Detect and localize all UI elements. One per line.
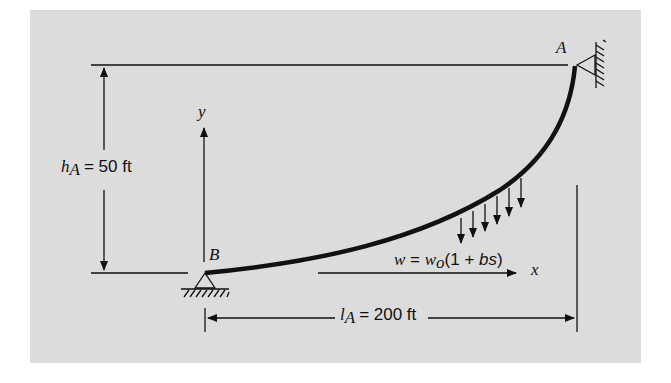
cable-diagram	[0, 0, 671, 383]
y-axis-label: y	[198, 102, 206, 122]
load-expr-close: )	[497, 250, 503, 269]
distributed-load-arrows	[461, 178, 521, 243]
point-a-label: A	[556, 38, 566, 58]
length-subscript: A	[345, 308, 355, 327]
point-b-label: B	[209, 245, 219, 265]
x-axis-label: x	[531, 260, 539, 280]
height-subscript: A	[70, 160, 80, 179]
load-expr-open: (1 +	[445, 250, 480, 269]
load-w0: w	[425, 250, 436, 269]
load-equation-label: w = wo(1 + bs)	[394, 250, 503, 273]
load-w: w	[394, 250, 405, 269]
height-dimension-label: hA = 50 ft	[58, 157, 135, 180]
length-value: = 200 ft	[359, 305, 416, 324]
length-dimension-label: lA = 200 ft	[337, 305, 419, 328]
pin-support-b-icon	[181, 273, 229, 297]
height-symbol: h	[61, 157, 70, 176]
cable-curve	[205, 66, 575, 273]
pin-support-a-icon	[577, 40, 606, 88]
height-value: = 50 ft	[84, 157, 132, 176]
load-equals: =	[405, 250, 424, 269]
load-bs: bs	[479, 250, 497, 269]
load-w0-subscript: o	[436, 253, 445, 272]
